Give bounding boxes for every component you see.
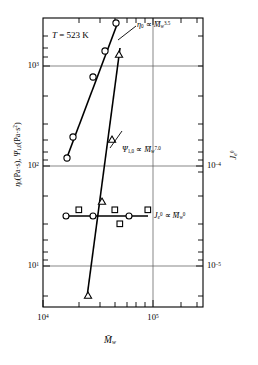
chart-canvas	[0, 0, 258, 365]
x-tick-1e5: 105	[135, 312, 171, 322]
data-point	[112, 207, 118, 213]
data-point	[70, 134, 76, 140]
data-point	[64, 155, 70, 161]
y-tick-100: 102	[6, 160, 39, 170]
y-axis-label: η0(Pa·s), Ψ1,0(Pa·s2)	[12, 80, 21, 230]
annotation-je-power-law: Je0 ∝ M̄w0	[154, 210, 185, 220]
y-axis-right-label: Je0	[228, 125, 238, 185]
data-point	[126, 213, 132, 219]
y-right-tick-1e-4: 10–4	[207, 160, 221, 170]
plot-frame	[43, 18, 203, 307]
data-point	[113, 20, 119, 26]
annotation-temperature: T = 523 K	[52, 30, 89, 40]
data-point	[117, 221, 123, 227]
x-axis-label: M̄w	[104, 336, 116, 346]
data-point	[145, 207, 151, 213]
chart-figure: 103 102 101 10–4 10–5 104 105 M̄w η0(Pa·…	[0, 0, 258, 365]
data-point	[102, 48, 108, 54]
annotation-psi-power-law: Ψ1,0 ∝ M̄w7.0	[122, 144, 161, 154]
y-tick-1000: 103	[6, 60, 39, 70]
data-point	[90, 74, 96, 80]
y-right-tick-1e-5: 10–5	[207, 260, 221, 270]
annotation-eta-power-law: η0 ∝ M̄w3.5	[137, 19, 170, 29]
data-point	[76, 207, 82, 213]
data-point	[90, 213, 96, 219]
y-tick-10: 101	[6, 260, 39, 270]
x-tick-1e4: 104	[25, 312, 61, 322]
data-point	[63, 213, 69, 219]
